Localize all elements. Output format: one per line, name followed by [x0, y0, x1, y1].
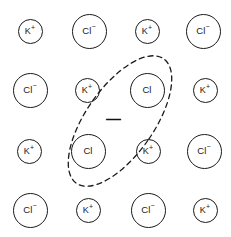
lattice-ion-k-plus: K+ [193, 198, 218, 223]
ion-label: K+ [200, 85, 210, 94]
defect-ion-cl-neutral: Cl [71, 134, 106, 169]
ion-charge: + [149, 143, 153, 150]
lattice-ion-k-plus: K+ [18, 19, 43, 44]
ion-charge: + [89, 202, 93, 209]
ion-label: K+ [142, 26, 152, 35]
lattice-ion-cl-minus: Cl− [187, 134, 222, 169]
ion-label: K+ [83, 205, 93, 214]
ion-charge: − [32, 203, 36, 210]
lattice-ion-k-plus: K+ [76, 198, 101, 223]
ion-label: Cl [83, 146, 92, 156]
ion-label: Cl− [197, 146, 210, 156]
lattice-ion-k-plus: K+ [135, 19, 160, 44]
ion-charge: + [30, 143, 34, 150]
ion-charge: + [31, 23, 35, 30]
ion-charge: − [91, 24, 95, 31]
lattice-ion-cl-minus: Cl− [131, 193, 166, 228]
lattice-ion-cl-minus: Cl− [13, 73, 48, 108]
ion-label: Cl− [23, 85, 36, 95]
ion-charge: − [32, 83, 36, 90]
ion-charge: + [148, 23, 152, 30]
lattice-ion-cl-minus: Cl− [72, 14, 107, 49]
ion-charge: + [88, 82, 92, 89]
ion-label: Cl− [23, 205, 36, 215]
lattice-ion-k-plus: K+ [136, 139, 161, 164]
ion-charge: − [205, 24, 209, 31]
lattice-ion-cl-minus: Cl− [186, 14, 221, 49]
trapped-electron-symbol: — [106, 111, 121, 126]
ion-label: K+ [82, 85, 92, 94]
ion-label: Cl [142, 85, 151, 95]
lattice-ion-k-plus: K+ [17, 139, 42, 164]
ion-charge: + [206, 82, 210, 89]
ion-label: Cl− [141, 205, 154, 215]
ion-label: K+ [24, 146, 34, 155]
ion-charge: + [206, 202, 210, 209]
ion-label: K+ [200, 205, 210, 214]
ion-label: K+ [25, 26, 35, 35]
ion-label: Cl− [82, 26, 95, 36]
ion-charge: − [150, 203, 154, 210]
kcl-lattice-defect-diagram: — K+ Cl− K+ Cl− Cl− K+ Cl K+ K+ Cl K+ Cl… [0, 0, 231, 237]
lattice-ion-cl-minus: Cl− [13, 193, 48, 228]
defect-ion-cl-neutral: Cl [130, 73, 165, 108]
ion-charge: − [206, 144, 210, 151]
ion-label: Cl− [196, 26, 209, 36]
lattice-ion-k-plus: K+ [75, 78, 100, 103]
ion-label: K+ [143, 146, 153, 155]
lattice-ion-k-plus: K+ [193, 78, 218, 103]
